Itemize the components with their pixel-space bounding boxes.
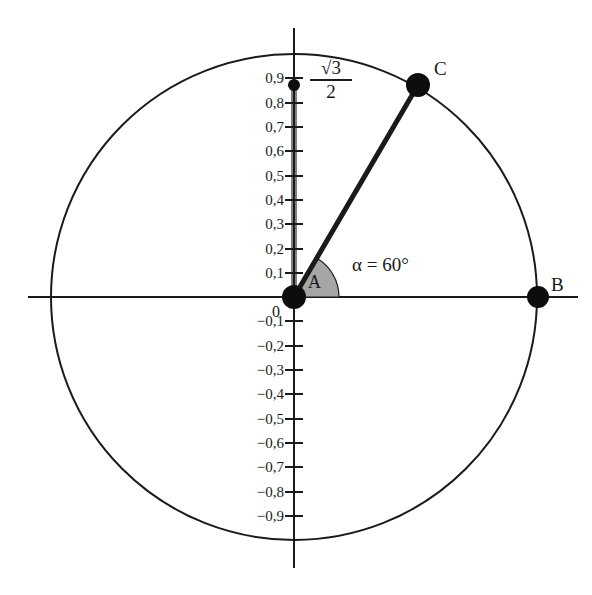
y-tick-label-0.5: 0,5 xyxy=(248,168,284,185)
y-tick-label-neg-0.7: −0,7 xyxy=(240,459,284,476)
y-tick-label-neg-0.8: −0,8 xyxy=(240,484,284,501)
figure-canvas xyxy=(0,0,592,595)
y-tick-label-neg-0.2: −0,2 xyxy=(240,338,284,355)
y-tick-label-0.4: 0,4 xyxy=(248,192,284,209)
unit-circle-figure: 0,9 0,8 0,7 0,6 0,5 0,4 0,3 0,2 0,1 0 −0… xyxy=(0,0,592,595)
angle-label: α = 60° xyxy=(352,254,409,276)
point-b-label: B xyxy=(551,274,564,296)
y-tick-label-neg-0.6: −0,6 xyxy=(240,435,284,452)
sine-value-marker[interactable] xyxy=(288,79,300,91)
sqrt3-over-2-label: √3 2 xyxy=(310,58,352,102)
y-tick-label-neg-0.1: −0,1 xyxy=(240,313,284,330)
y-tick-label-neg-0.4: −0,4 xyxy=(240,386,284,403)
y-tick-label-0.9: 0,9 xyxy=(248,70,284,87)
y-tick-label-neg-0.3: −0,3 xyxy=(240,362,284,379)
y-tick-label-0.7: 0,7 xyxy=(248,119,284,136)
y-tick-label-neg-0.9: −0,9 xyxy=(240,508,284,525)
point-a-label: A xyxy=(308,272,321,293)
point-c-marker[interactable] xyxy=(406,73,430,97)
fraction-denominator: 2 xyxy=(310,81,352,102)
point-a-marker[interactable] xyxy=(282,285,306,309)
y-tick-label-0.1: 0,1 xyxy=(248,265,284,282)
point-b-marker[interactable] xyxy=(527,286,549,308)
y-tick-label-0.2: 0,2 xyxy=(248,241,284,258)
fraction-numerator: √3 xyxy=(310,58,352,79)
y-tick-label-0.6: 0,6 xyxy=(248,143,284,160)
y-tick-label-neg-0.5: −0,5 xyxy=(240,411,284,428)
point-c-label: C xyxy=(434,58,447,80)
y-tick-label-0.8: 0,8 xyxy=(248,95,284,112)
y-tick-label-0.3: 0,3 xyxy=(248,216,284,233)
